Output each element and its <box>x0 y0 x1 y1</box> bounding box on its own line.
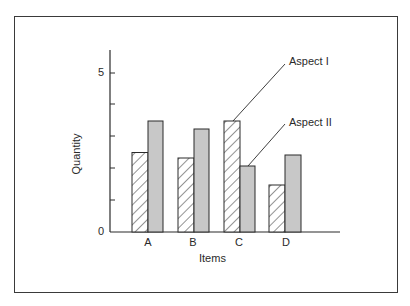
callout-line-aspect-2 <box>248 124 285 166</box>
x-category-a: A <box>138 236 158 248</box>
y-tick-label-5: 5 <box>90 66 104 78</box>
x-category-b: B <box>183 236 203 248</box>
callout-line-aspect-1 <box>233 64 285 121</box>
bar-b-aspect-2 <box>194 129 209 232</box>
bar-c-aspect-1 <box>224 121 240 232</box>
y-tick-label-0: 0 <box>90 225 104 237</box>
bar-a-aspect-1 <box>132 153 148 233</box>
bar-b-aspect-1 <box>178 158 194 232</box>
callout-label-aspect-2: Aspect II <box>289 116 332 128</box>
x-category-d: D <box>276 236 296 248</box>
x-category-c: C <box>229 236 249 248</box>
bar-d-aspect-2 <box>285 155 301 232</box>
x-axis-label: Items <box>199 252 226 264</box>
y-axis-label: Quantity <box>70 124 82 184</box>
bar-c-aspect-2 <box>240 166 255 232</box>
y-ticks <box>110 73 115 200</box>
bar-a-aspect-2 <box>148 121 163 232</box>
bar-d-aspect-1 <box>269 185 285 232</box>
callout-label-aspect-1: Aspect I <box>289 55 329 67</box>
